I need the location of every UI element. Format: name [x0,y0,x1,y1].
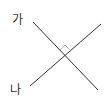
line-na [30,24,101,86]
line-ga [33,22,98,90]
right-angle-marker [60,45,70,50]
perpendicular-lines-diagram: 가 나 [0,0,110,106]
label-na: 나 [10,83,21,97]
label-ga: 가 [12,13,23,27]
